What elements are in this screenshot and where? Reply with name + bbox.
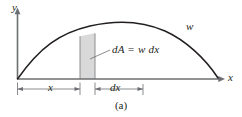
differential-area-annotation: dA = w dx (112, 44, 159, 55)
x-dimension-arrow-left (18, 87, 24, 91)
figure-caption: (a) (0, 99, 242, 111)
figure-container: y x w dA = w dx x dx (a) (0, 0, 242, 117)
x-axis-arrowhead (218, 76, 225, 82)
dx-dimension-arrow-right (138, 87, 144, 91)
y-axis-label: y (12, 2, 17, 13)
x-axis-label: x (228, 72, 233, 83)
dx-dimension-arrow-left (95, 87, 101, 91)
x-dimension-arrow-right (75, 87, 81, 91)
differential-strip-fill (80, 33, 95, 79)
curve-label-w: w (186, 21, 193, 32)
dx-dimension-label: dx (110, 82, 120, 93)
x-dimension-label: x (48, 82, 53, 93)
